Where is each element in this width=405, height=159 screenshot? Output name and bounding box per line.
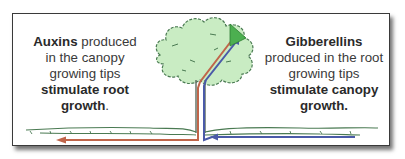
caption-text: produced bbox=[78, 34, 137, 49]
auxins-caption: Auxins produced in the canopy growing ti… bbox=[26, 34, 144, 114]
gibberellins-caption: Gibberellins produced in the root growin… bbox=[258, 34, 390, 114]
roots-icon bbox=[26, 128, 378, 135]
caption-text: growing tips bbox=[258, 66, 390, 82]
gibberellins-term: Gibberellins bbox=[286, 34, 363, 49]
caption-emphasis: growth bbox=[61, 98, 105, 113]
caption-emphasis: stimulate root bbox=[41, 82, 129, 97]
caption-text: growing tips bbox=[26, 66, 144, 82]
auxins-term: Auxins bbox=[33, 34, 77, 49]
caption-emphasis: growth. bbox=[300, 98, 348, 113]
caption-text: . bbox=[105, 98, 109, 113]
caption-text: produced in the root bbox=[258, 50, 390, 66]
caption-emphasis: stimulate canopy bbox=[270, 82, 379, 97]
caption-text: in the canopy bbox=[26, 50, 144, 66]
